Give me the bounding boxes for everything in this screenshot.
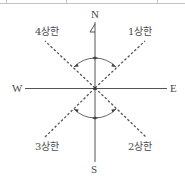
north-arrow-icon [90,24,95,32]
compass-diagram [0,0,185,181]
center-point [94,87,97,90]
label-east: E [170,83,177,94]
label-quadrant-1: 1상한 [128,27,151,37]
table-border [0,0,185,4]
label-south: S [91,164,97,175]
label-quadrant-3: 3상한 [35,142,58,152]
label-north: N [91,9,99,20]
label-west: W [12,83,22,94]
label-quadrant-2: 2상한 [128,142,151,152]
label-quadrant-4: 4상한 [35,27,58,37]
